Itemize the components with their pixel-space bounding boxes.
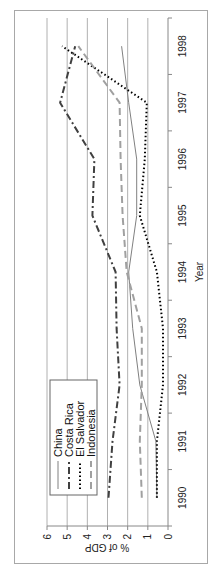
x-tick-label: 1991 (177, 430, 188, 453)
y-tick-label: 6 (42, 534, 53, 540)
x-tick-label: 1998 (177, 35, 188, 58)
y-tick-label: 5 (62, 534, 73, 540)
y-tick-label: 3 (102, 534, 113, 540)
chart-rotated: 0123456199019911992199319941995199619971… (14, 10, 208, 564)
chart-frame-wrapper: 0123456199019911992199319941995199619971… (14, 10, 208, 564)
x-tick-label: 1992 (177, 373, 188, 396)
x-tick-label: 1990 (177, 486, 188, 509)
y-tick-label: 4 (82, 534, 93, 540)
y-axis-title: % of GDP (84, 542, 129, 553)
x-tick-label: 1997 (177, 91, 188, 114)
x-tick-label: 1994 (177, 260, 188, 283)
legend-label: Indonesia (85, 408, 97, 457)
y-tick-label: 1 (142, 534, 153, 540)
y-tick-label: 0 (163, 534, 174, 540)
y-tick-label: 2 (122, 534, 133, 540)
x-axis-title: Year (194, 261, 205, 282)
x-tick-label: 1996 (177, 148, 188, 171)
x-tick-label: 1993 (177, 317, 188, 340)
line-chart: 0123456199019911992199319941995199619971… (14, 10, 208, 564)
x-tick-label: 1995 (177, 204, 188, 227)
legend: ChinaCosta RicaEl SalvadorIndonesia (50, 380, 97, 495)
